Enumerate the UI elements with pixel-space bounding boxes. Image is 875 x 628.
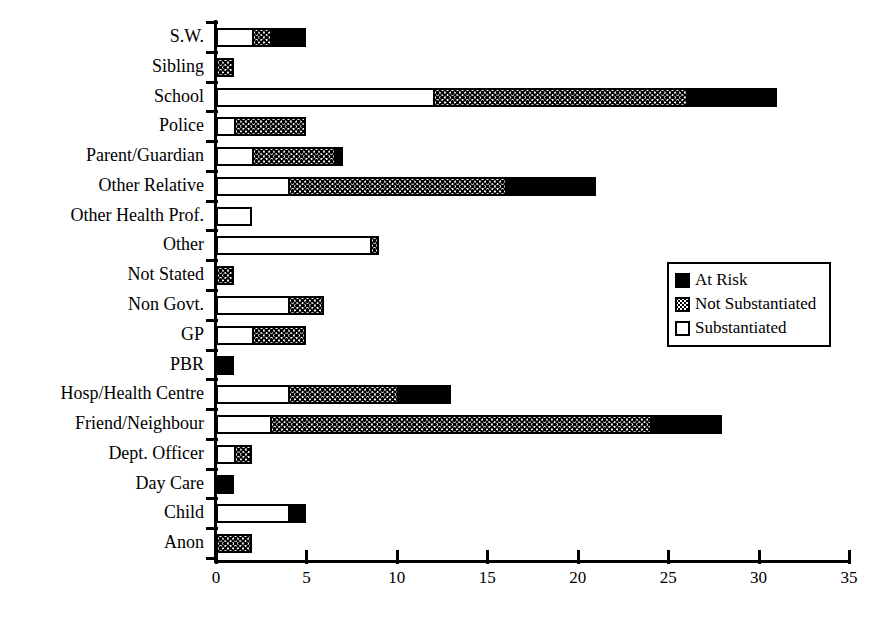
bar-segment-substantiated: [216, 504, 288, 523]
bar-segment-at-risk: [270, 28, 306, 47]
y-axis-tick: [206, 438, 218, 441]
y-axis-tick: [206, 170, 218, 173]
bar-row: Anon: [216, 528, 849, 558]
bar-segment-substantiated: [216, 117, 234, 136]
bar-segment-at-risk: [397, 385, 451, 404]
bar-segment-substantiated: [216, 326, 252, 345]
y-axis-category-label: School: [154, 82, 204, 112]
stacked-bar: [216, 445, 252, 464]
y-axis-category-label: Parent/Guardian: [86, 141, 204, 171]
y-axis-category-label: Dept. Officer: [108, 439, 204, 469]
y-axis-tick: [206, 527, 218, 530]
bar-row: Police: [216, 111, 849, 141]
y-axis-tick: [206, 319, 218, 322]
bar-segment-at-risk: [288, 504, 306, 523]
y-axis-tick: [206, 497, 218, 500]
stacked-bar: [216, 177, 596, 196]
bar-segment-not-substantiated: [252, 326, 306, 345]
bar-segment-not-substantiated: [288, 177, 505, 196]
stacked-bar: [216, 385, 451, 404]
x-axis-tick: [396, 550, 399, 564]
y-axis-category-label: Other Relative: [99, 171, 204, 201]
y-axis-category-label: Other: [163, 230, 204, 260]
bar-segment-not-substantiated: [433, 88, 686, 107]
legend-label: Substantiated: [695, 319, 787, 337]
bar-segment-not-substantiated: [288, 296, 324, 315]
y-axis-category-label: PBR: [170, 350, 204, 380]
y-axis-tick: [206, 378, 218, 381]
bar-segment-not-substantiated: [216, 58, 234, 77]
bar-segment-substantiated: [216, 88, 433, 107]
bar-segment-at-risk: [216, 475, 234, 494]
x-axis-tick: [758, 550, 761, 564]
x-axis-line: [214, 560, 851, 563]
stacked-bar: [216, 296, 324, 315]
y-axis-category-label: S.W.: [170, 22, 204, 52]
y-axis-category-label: Anon: [164, 528, 204, 558]
y-axis-category-label: Not Stated: [128, 260, 205, 290]
y-axis-tick: [206, 468, 218, 471]
solid-black-swatch-icon: [675, 273, 690, 288]
y-axis-category-label: Police: [159, 111, 204, 141]
x-axis-tick: [305, 550, 308, 564]
x-axis-tick-label: 5: [286, 568, 326, 588]
bar-row: S.W.: [216, 22, 849, 52]
stacked-bar: [216, 58, 234, 77]
y-axis-tick: [206, 21, 218, 24]
x-axis-tick-label: 30: [739, 568, 779, 588]
x-axis-tick-label: 10: [377, 568, 417, 588]
bar-segment-substantiated: [216, 385, 288, 404]
y-axis-category-label: GP: [181, 320, 204, 350]
legend-item-substantiated: Substantiated: [675, 316, 823, 340]
x-axis-tick: [215, 550, 218, 564]
x-axis-tick-label: 15: [467, 568, 507, 588]
x-axis-tick: [486, 550, 489, 564]
y-axis-tick: [206, 110, 218, 113]
x-axis-tick-label: 0: [196, 568, 236, 588]
bar-segment-substantiated: [216, 207, 252, 226]
bar-segment-substantiated: [216, 147, 252, 166]
bar-segment-substantiated: [216, 296, 288, 315]
stacked-bar: [216, 207, 252, 226]
legend-item-not-substantiated: Not Substantiated: [675, 292, 823, 316]
bar-segment-substantiated: [216, 177, 288, 196]
bar-segment-not-substantiated: [234, 445, 252, 464]
stacked-bar: [216, 326, 306, 345]
y-axis-category-label: Friend/Neighbour: [75, 409, 204, 439]
bar-segment-at-risk: [686, 88, 776, 107]
bar-segment-substantiated: [216, 415, 270, 434]
x-axis-tick-label: 35: [829, 568, 869, 588]
y-axis-tick: [206, 408, 218, 411]
bar-segment-substantiated: [216, 28, 252, 47]
x-axis-tick: [848, 550, 851, 564]
y-axis-category-label: Day Care: [136, 469, 204, 499]
bar-row: PBR: [216, 350, 849, 380]
bar-row: Dept. Officer: [216, 439, 849, 469]
y-axis-tick: [206, 229, 218, 232]
y-axis-tick: [206, 200, 218, 203]
bar-segment-at-risk: [216, 356, 234, 375]
bar-row: Other Relative: [216, 171, 849, 201]
x-axis-tick: [577, 550, 580, 564]
x-axis-tick: [667, 550, 670, 564]
y-axis-category-label: Sibling: [152, 52, 204, 82]
bar-segment-not-substantiated: [252, 147, 333, 166]
y-axis-category-label: Hosp/Health Centre: [61, 379, 204, 409]
bar-row: Day Care: [216, 469, 849, 499]
y-axis-tick: [206, 140, 218, 143]
white-swatch-icon: [675, 321, 690, 336]
y-axis-category-label: Other Health Prof.: [71, 201, 204, 231]
legend-label: Not Substantiated: [695, 295, 816, 313]
x-axis-tick-label: 25: [648, 568, 688, 588]
bar-row: Other: [216, 230, 849, 260]
bar-segment-not-substantiated: [252, 28, 270, 47]
stacked-bar: [216, 266, 234, 285]
bar-row: School: [216, 82, 849, 112]
chart-legend: At Risk Not Substantiated Substantiated: [667, 262, 831, 347]
stipple-swatch-icon: [675, 297, 690, 312]
stacked-bar: [216, 236, 379, 255]
bar-row: Parent/Guardian: [216, 141, 849, 171]
bar-row: Child: [216, 498, 849, 528]
bar-segment-not-substantiated: [288, 385, 397, 404]
y-axis-tick: [206, 289, 218, 292]
